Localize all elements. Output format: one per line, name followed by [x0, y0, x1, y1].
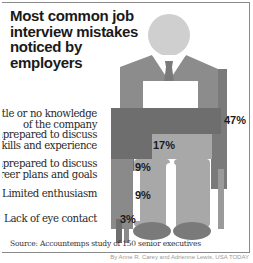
label-line: Lack of eye contact [4, 213, 97, 224]
value-label: 9% [135, 189, 151, 201]
category-label: Little or no knowledge of the company [2, 108, 97, 130]
category-label: Unprepared to discuss career plans and g… [2, 158, 97, 180]
label-line: skills and experience [2, 140, 97, 151]
title-line: interview mistakes [10, 24, 150, 40]
title-line: noticed by employers [10, 39, 150, 70]
source-note: Source: Accountemps study of 150 senior … [10, 239, 201, 248]
label-line: Little or no knowledge [2, 108, 97, 119]
label-line: Unprepared to discuss [2, 129, 97, 140]
credit-line: By Anne R. Carey and Adrienne Lewis, USA… [110, 254, 249, 260]
title-line: Most common job [10, 8, 150, 24]
chart-title: Most common job interview mistakes notic… [10, 8, 150, 70]
infographic-frame: Most common job interview mistakes notic… [2, 2, 250, 253]
label-line: Limited enthusiasm [2, 188, 97, 199]
value-label: 3% [120, 213, 136, 225]
label-line: career plans and goals [2, 169, 97, 180]
value-label: 9% [135, 161, 151, 173]
label-line: Unprepared to discuss [2, 158, 97, 169]
category-label: Unprepared to discuss skills and experie… [2, 129, 97, 151]
value-label: 47% [224, 114, 246, 126]
category-label: Limited enthusiasm [2, 188, 97, 199]
category-label: Lack of eye contact [4, 213, 97, 224]
value-label: 17% [153, 139, 175, 151]
